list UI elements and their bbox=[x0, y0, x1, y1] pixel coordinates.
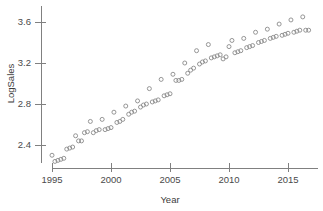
data-point-group bbox=[50, 15, 311, 164]
data-point bbox=[277, 22, 281, 26]
data-point bbox=[227, 45, 231, 49]
data-point bbox=[242, 36, 246, 40]
data-point bbox=[206, 43, 210, 47]
data-point bbox=[192, 66, 196, 70]
x-axis-tick-label: 2005 bbox=[159, 174, 180, 185]
data-point bbox=[254, 30, 258, 34]
data-point bbox=[230, 38, 234, 42]
data-point bbox=[80, 139, 84, 143]
data-point bbox=[171, 72, 175, 76]
data-point bbox=[265, 27, 269, 31]
data-point bbox=[301, 15, 305, 19]
plot-canvas: 2.42.83.23.6LogSales19952000200520102015… bbox=[0, 0, 323, 211]
x-axis-tick-label: 2000 bbox=[100, 174, 121, 185]
y-axis-title: LogSales bbox=[5, 63, 16, 103]
data-point bbox=[224, 55, 228, 59]
x-axis-title: Year bbox=[160, 194, 179, 205]
data-point bbox=[100, 117, 104, 121]
y-axis-tick-label: 2.4 bbox=[18, 139, 31, 150]
data-point bbox=[147, 87, 151, 91]
data-point bbox=[136, 99, 140, 103]
data-point bbox=[307, 28, 311, 32]
data-point bbox=[183, 61, 187, 65]
data-point bbox=[289, 18, 293, 22]
data-point bbox=[159, 77, 163, 81]
y-axis-tick-label: 2.8 bbox=[18, 98, 31, 109]
data-point bbox=[112, 110, 116, 114]
scatter-plot-figure: 2.42.83.23.6LogSales19952000200520102015… bbox=[0, 0, 323, 211]
data-point bbox=[121, 117, 125, 121]
data-point bbox=[74, 134, 78, 138]
data-point bbox=[50, 153, 54, 157]
data-point bbox=[124, 104, 128, 108]
x-axis-tick-label: 2015 bbox=[277, 174, 298, 185]
data-point bbox=[88, 119, 92, 123]
x-axis-tick-label: 2010 bbox=[218, 174, 239, 185]
data-point bbox=[195, 49, 199, 53]
x-axis-tick-label: 1995 bbox=[41, 174, 62, 185]
y-axis-tick-label: 3.2 bbox=[18, 57, 31, 68]
y-axis-tick-label: 3.6 bbox=[18, 16, 31, 27]
